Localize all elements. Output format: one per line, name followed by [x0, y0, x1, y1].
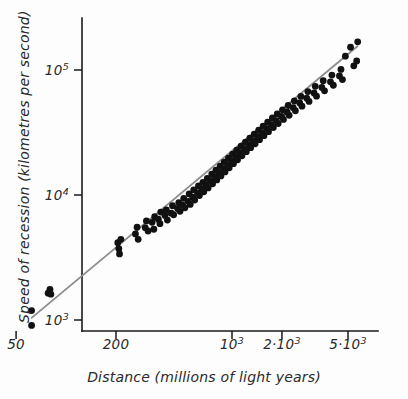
x-tick-label: 200	[103, 336, 130, 352]
y-tick-label-exponent: 4	[63, 186, 69, 197]
data-point	[135, 236, 142, 243]
data-point	[299, 103, 306, 110]
y-tick-label-mantissa: 10	[45, 62, 63, 78]
x-tick-label-exponent: 3	[238, 335, 244, 346]
data-point	[354, 38, 361, 45]
data-point	[47, 291, 54, 298]
y-tick-label-mantissa: 10	[45, 187, 63, 203]
data-point	[297, 93, 304, 100]
data-point	[330, 82, 337, 89]
x-tick-label-exponent: 3	[294, 335, 300, 346]
data-points	[28, 38, 361, 328]
data-point	[292, 107, 299, 114]
x-axis-title: Distance (millions of light years)	[0, 369, 408, 385]
y-tick-label-exponent: 3	[63, 311, 69, 322]
data-point	[116, 250, 123, 257]
x-tick-label: 5·103	[329, 336, 367, 352]
data-point	[143, 218, 150, 225]
y-tick-label-exponent: 5	[63, 61, 69, 72]
data-point	[157, 220, 164, 227]
data-point	[164, 217, 171, 224]
data-point	[280, 116, 287, 123]
data-point	[342, 53, 349, 60]
data-point	[304, 88, 311, 95]
data-point	[150, 226, 157, 233]
data-point	[145, 228, 152, 235]
data-point	[338, 66, 345, 73]
data-point	[347, 44, 354, 51]
data-point	[117, 236, 124, 243]
data-point	[134, 224, 141, 231]
x-tick-label-mantissa: 2·10	[263, 336, 294, 352]
y-axis-title: Speed of recession (kilometres per secon…	[16, 13, 32, 323]
x-tick-label-mantissa: 200	[103, 336, 130, 352]
x-tick-label-exponent: 3	[360, 335, 366, 346]
data-point	[320, 77, 327, 84]
data-point	[170, 211, 177, 218]
regression-line	[32, 46, 358, 318]
data-point	[339, 76, 346, 83]
x-tick-label-mantissa: 5·10	[329, 336, 360, 352]
x-tick-label-mantissa: 10	[220, 336, 238, 352]
y-axis-title-container: Speed of recession (kilometres per secon…	[0, 0, 40, 340]
data-point	[306, 98, 313, 105]
data-point	[329, 72, 336, 79]
x-tick-label: 103	[220, 336, 244, 352]
data-point	[312, 83, 319, 90]
hubble-diagram-figure: 103104105 502001032·1035·103 Speed of re…	[0, 0, 408, 399]
y-tick-label-mantissa: 10	[45, 312, 63, 328]
regression-line-segment	[32, 46, 358, 318]
data-point	[353, 58, 360, 65]
x-tick-label: 2·103	[263, 336, 301, 352]
data-point	[286, 112, 293, 119]
data-point	[313, 93, 320, 100]
data-point	[321, 87, 328, 94]
